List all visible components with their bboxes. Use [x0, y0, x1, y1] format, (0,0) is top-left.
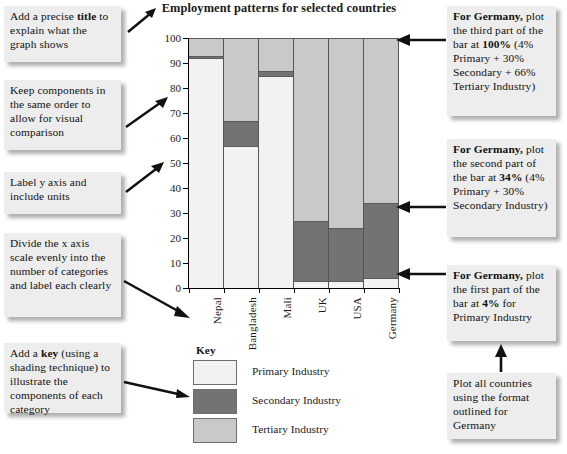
- note-all-countries: Plot all countries using the format outl…: [447, 373, 556, 439]
- x-axis-label-nepal: Nepal: [211, 297, 223, 324]
- x-axis-label-bangladesh: Bangladesh: [246, 297, 258, 350]
- x-axis-label-usa: USA: [351, 297, 363, 320]
- bar-nepal: [189, 38, 224, 288]
- y-axis-tick-label: 10: [170, 257, 181, 269]
- bar-segment: [224, 121, 258, 146]
- legend-item: Primary Industry: [190, 360, 400, 387]
- bar-segment: [259, 71, 293, 76]
- bar-segment: [364, 278, 398, 288]
- bar-segment: [224, 146, 258, 289]
- legend-swatch: [193, 418, 237, 443]
- x-axis-label-uk: UK: [316, 297, 328, 313]
- arrow-xaxis: [122, 278, 192, 320]
- arrow-yaxis: [124, 160, 164, 194]
- x-axis-tick: [294, 288, 295, 293]
- legend-label: Secondary Industry: [252, 394, 341, 406]
- bar-segment: [294, 281, 328, 289]
- note-germany-second: For Germany, plot the second part of the…: [447, 139, 556, 237]
- bar-segment: [189, 38, 223, 56]
- legend-title: Key: [196, 344, 216, 356]
- chart-title: Employment patterns for selected countri…: [145, 1, 413, 16]
- arrow-germany-100: [396, 33, 446, 47]
- x-axis-tick: [364, 288, 365, 293]
- plot-area: 0102030405060708090100 % Population Nepa…: [188, 38, 399, 289]
- note-germany-first: For Germany, plot the first part of the …: [447, 265, 556, 341]
- arrow-key: [122, 378, 192, 400]
- arrow-up-germany-first: [494, 344, 508, 372]
- x-axis-tick: [259, 288, 260, 293]
- bar-segment: [364, 38, 398, 203]
- bar-segment: [189, 58, 223, 288]
- x-axis-tick: [399, 288, 400, 293]
- y-axis-tick-label: 90: [170, 57, 181, 69]
- bar-usa: [329, 38, 364, 288]
- bar-segment: [189, 56, 223, 59]
- arrow-title: [126, 8, 156, 34]
- bar-segment: [364, 203, 398, 278]
- legend-swatch: [193, 389, 237, 414]
- note-order: Keep components in the same order to all…: [4, 80, 121, 150]
- y-axis-tick-label: 40: [170, 182, 181, 194]
- bar-segment: [224, 38, 258, 121]
- bar-mali: [259, 38, 294, 288]
- bar-segment: [329, 281, 363, 289]
- bar-segment: [329, 38, 363, 228]
- legend-label: Tertiary Industry: [252, 423, 329, 435]
- bar-segment: [294, 38, 328, 221]
- x-axis-label-mali: Mali: [281, 297, 293, 319]
- y-axis-tick-label: 70: [170, 107, 181, 119]
- x-axis-label-germany: Germany: [386, 297, 398, 339]
- legend-item: Secondary Industry: [190, 389, 400, 416]
- legend-label: Primary Industry: [252, 365, 330, 377]
- y-axis-tick-label: 60: [170, 132, 181, 144]
- note-xaxis: Divide the x axis scale evenly into the …: [4, 233, 121, 317]
- bar-uk: [294, 38, 329, 288]
- arrow-order: [124, 95, 168, 129]
- note-yaxis: Label y axis and include units: [4, 172, 121, 214]
- y-axis-tick-label: 20: [170, 232, 181, 244]
- bar-segment: [259, 76, 293, 289]
- bar-segment: [259, 38, 293, 71]
- note-title: Add a precise title to explain what the …: [4, 6, 121, 62]
- note-germany-third: For Germany, plot the third part of the …: [447, 6, 556, 116]
- y-axis-tick-label: 80: [170, 82, 181, 94]
- legend-swatch: [193, 360, 237, 385]
- y-axis-tick-label: 30: [170, 207, 181, 219]
- arrow-germany-34: [396, 200, 446, 214]
- legend: Key Primary IndustrySecondary IndustryTe…: [190, 344, 400, 452]
- note-key: Add a key (using a shading technique) to…: [4, 343, 121, 413]
- bar-bangladesh: [224, 38, 259, 288]
- bar-germany: [364, 38, 399, 288]
- arrow-germany-4: [396, 267, 446, 281]
- legend-item: Tertiary Industry: [190, 418, 400, 445]
- x-axis-tick: [224, 288, 225, 293]
- y-axis-tick-label: 50: [170, 157, 181, 169]
- y-axis-tick-label: 100: [165, 32, 182, 44]
- bar-segment: [294, 221, 328, 281]
- x-axis-tick: [329, 288, 330, 293]
- bar-segment: [329, 228, 363, 281]
- figure-root: Add a precise title to explain what the …: [0, 0, 567, 454]
